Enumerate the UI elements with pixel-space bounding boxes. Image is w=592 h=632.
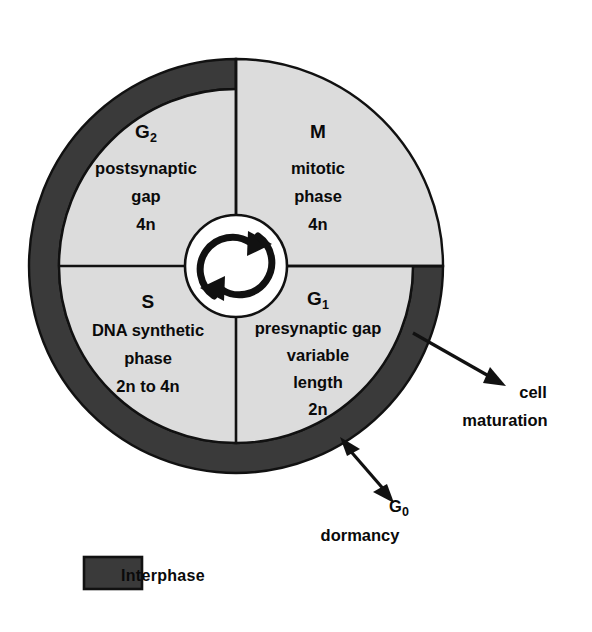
cell-cycle-hub (185, 215, 287, 317)
m-line-1: mitotic (291, 159, 345, 177)
m-line-2: phase (294, 187, 342, 205)
cell-maturation-arrow-shaft (413, 333, 494, 379)
s-line-2: phase (124, 349, 172, 367)
s-line-1: DNA synthetic (92, 321, 204, 339)
g1-line-2: variable (287, 346, 349, 364)
g2-line-3: 4n (136, 215, 155, 233)
g0-dormancy-annotation: G0 dormancy (321, 437, 409, 544)
s-line-3: 2n to 4n (116, 377, 179, 395)
cell-maturation-arrowhead (483, 367, 506, 386)
cell-maturation-line-2: maturation (462, 411, 547, 429)
m-line-3: 4n (308, 215, 327, 233)
g1-line-1: presynaptic gap (255, 319, 382, 337)
g2-line-1: postsynaptic (95, 159, 197, 177)
m-code: M (310, 121, 326, 142)
legend: Interphase (84, 557, 205, 589)
cell-cycle-diagram: G2 postsynaptic gap 4n M mitotic phase 4… (0, 0, 592, 632)
cell-maturation-annotation: cell maturation (413, 333, 548, 429)
s-code: S (142, 291, 155, 312)
g1-line-4: 2n (308, 400, 327, 418)
g2-line-2: gap (131, 187, 160, 205)
cell-maturation-line-1: cell (519, 383, 547, 401)
g0-arrow-shaft (347, 447, 386, 492)
legend-label-interphase: Interphase (121, 567, 205, 584)
g0-code: G0 (389, 497, 409, 519)
g0-dormancy-label: dormancy (321, 526, 401, 544)
g1-line-3: length (293, 373, 343, 391)
